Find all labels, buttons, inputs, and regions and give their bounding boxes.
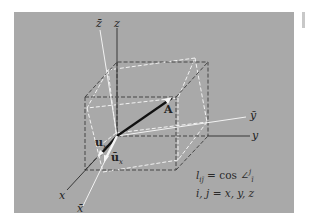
coordinate-transform-diagram [0, 0, 310, 220]
formula-equals-cos: = cos [204, 169, 240, 181]
point-label-a: A [164, 104, 173, 115]
axis-label-y-bar: ȳ [250, 110, 256, 121]
axis-label-z: z [114, 18, 120, 29]
formula-line-2: i, j = x, y, z [196, 187, 254, 200]
unit-vector-label-ux-bar: ūx [111, 152, 123, 166]
formula-line-1: lij̄ = cos ∠jī [196, 166, 254, 187]
axis-label-y: y [252, 130, 258, 141]
angle-icon: ∠ [240, 169, 249, 181]
ux-bar-arrowhead [104, 155, 109, 163]
ux-symbol: u [95, 136, 103, 149]
axis-label-x: x [59, 190, 65, 201]
ux-bar-subscript: x [119, 158, 123, 166]
axis-label-x-bar: x̄ [77, 203, 83, 214]
direction-cosine-formula: lij̄ = cos ∠jī i, j = x, y, z [196, 166, 254, 200]
ux-bar-symbol: ū [111, 151, 119, 164]
axis-label-z-bar: z̄ [96, 18, 102, 29]
unit-vector-label-ux: ux [95, 137, 107, 151]
ux-subscript: x [103, 143, 107, 151]
formula-angle-subscript: ī [251, 176, 253, 184]
